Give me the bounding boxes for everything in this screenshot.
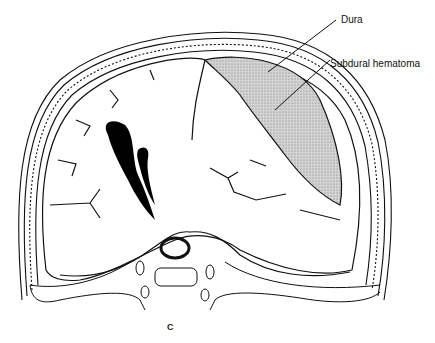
ventricles bbox=[106, 121, 155, 220]
subdural-hematoma-region bbox=[205, 57, 342, 205]
dura-label: Dura bbox=[341, 14, 363, 25]
panel-letter: C bbox=[167, 322, 174, 332]
skull-base bbox=[30, 238, 380, 310]
brain-coronal-diagram bbox=[0, 0, 435, 343]
subdural-hematoma-label: Subdural hematoma bbox=[330, 58, 420, 69]
